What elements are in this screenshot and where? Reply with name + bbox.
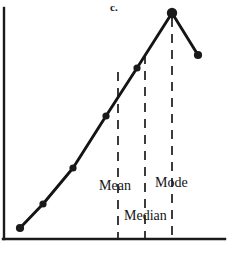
data-point <box>167 8 177 18</box>
mode-label: Mode <box>155 175 188 191</box>
data-point <box>69 164 76 171</box>
data-point-markers <box>16 8 202 232</box>
data-point <box>39 200 46 207</box>
data-point <box>102 112 109 119</box>
data-point <box>194 51 202 59</box>
data-point <box>16 224 24 232</box>
data-point <box>133 64 140 71</box>
mean-label: Mean <box>99 178 131 194</box>
data-series <box>16 8 202 232</box>
figure-panel: c. Mean Median Mode <box>0 0 228 257</box>
reference-lines <box>118 18 172 239</box>
plot-area <box>0 0 228 257</box>
median-label: Median <box>124 208 167 224</box>
